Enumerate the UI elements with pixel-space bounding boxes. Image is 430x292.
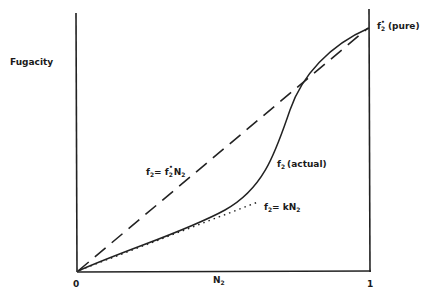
y-axis [76, 13, 77, 272]
x-tick-zero: 0 [73, 279, 79, 289]
y-axis-label: Fugacity [10, 57, 53, 67]
pure-fugacity-label: f2•(pure) [377, 18, 420, 32]
pure-component-axis [369, 9, 370, 272]
fugacity-diagram: Fugacity 0 1 N2 f2•(pure) f2(actual) f2=… [0, 0, 430, 292]
raoult-law-line [78, 28, 368, 271]
actual-fugacity-label: f2(actual) [277, 159, 327, 170]
raoult-law-label: f2= f2•N2 [146, 163, 185, 178]
henry-law-line [80, 202, 258, 270]
x-axis-label: N2 [213, 275, 225, 286]
x-axis [77, 271, 371, 272]
x-tick-one: 1 [367, 279, 373, 289]
henry-law-label: f2= kN2 [264, 202, 301, 213]
